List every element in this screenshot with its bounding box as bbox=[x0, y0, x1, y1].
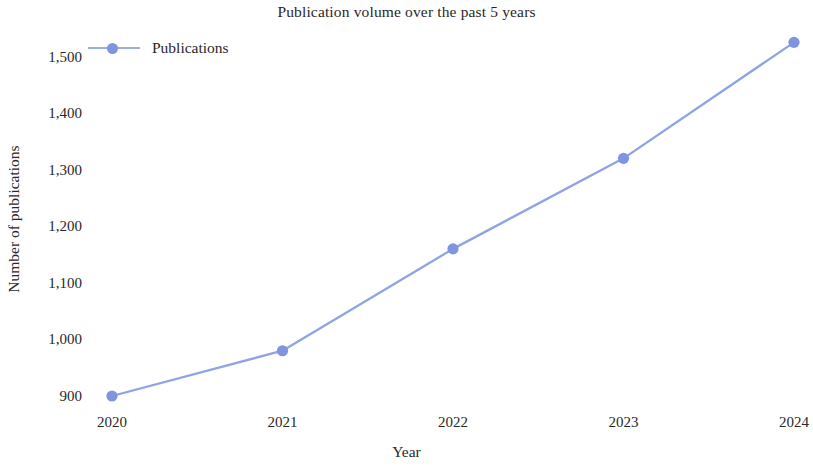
data-point-marker bbox=[106, 390, 117, 401]
data-point-marker bbox=[277, 345, 288, 356]
x-axis-title: Year bbox=[0, 443, 813, 461]
data-point-marker bbox=[618, 153, 629, 164]
series-line-publications bbox=[112, 42, 794, 396]
plot-area bbox=[0, 0, 813, 466]
y-axis-title: Number of publications bbox=[5, 109, 23, 329]
series-markers-publications bbox=[106, 37, 799, 402]
chart-container: Publication volume over the past 5 years… bbox=[0, 0, 813, 466]
data-point-marker bbox=[447, 243, 458, 254]
x-axis-tick-label: 2021 bbox=[268, 414, 298, 431]
x-axis-tick-label: 2020 bbox=[97, 414, 127, 431]
data-point-marker bbox=[788, 37, 799, 48]
x-axis-tick-label: 2024 bbox=[779, 414, 809, 431]
x-axis-tick-label: 2023 bbox=[609, 414, 639, 431]
x-axis-tick-label: 2022 bbox=[438, 414, 468, 431]
